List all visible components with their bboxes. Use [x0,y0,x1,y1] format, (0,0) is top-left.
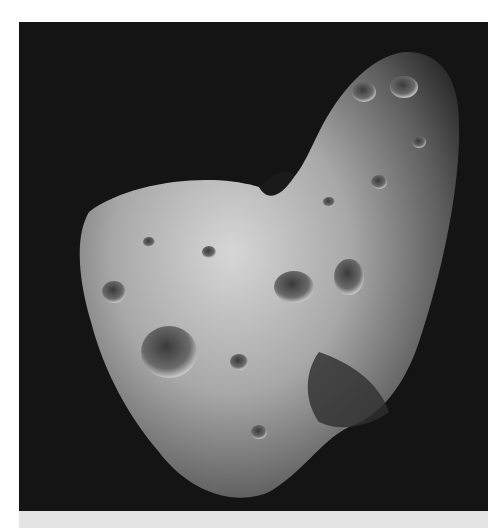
caption-band [19,511,488,528]
asteroid-body [80,52,459,498]
asteroid-photo [19,22,488,511]
image-frame [19,22,488,528]
asteroid-illustration [19,22,488,511]
